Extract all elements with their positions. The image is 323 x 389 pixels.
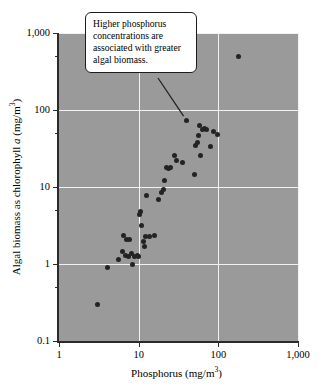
annotation-callout: Higher phosphorus concentrations are ass… xyxy=(85,12,197,73)
data-point xyxy=(127,237,132,242)
y-axis-minor-tick xyxy=(55,133,59,134)
data-point xyxy=(172,153,177,158)
y-axis-tick-label: 1,000 xyxy=(26,28,50,39)
gridline-vertical xyxy=(298,33,299,341)
y-axis-title-superscript: 3 xyxy=(8,102,17,106)
data-point xyxy=(236,54,241,59)
data-point xyxy=(174,158,179,163)
scatter-points xyxy=(59,33,298,341)
callout-line-2: concentrations are xyxy=(93,30,190,42)
plot-area: 0.11101001,0001101001,000 xyxy=(57,33,298,343)
data-point xyxy=(204,127,209,132)
x-axis-title-tail: ) xyxy=(218,367,222,379)
data-point xyxy=(116,257,121,262)
y-axis-minor-tick xyxy=(55,210,59,211)
x-axis-tick xyxy=(59,341,60,347)
data-point xyxy=(136,254,141,259)
x-axis-tick xyxy=(218,341,219,347)
y-axis-tick-label: 1 xyxy=(45,259,50,270)
y-axis-minor-tick xyxy=(55,56,59,57)
y-axis-title-text: Algal biomass as chlorophyll xyxy=(10,144,22,275)
y-axis-tick-label: 0.1 xyxy=(37,336,50,347)
x-axis-title: Phosphorus (mg/m3) xyxy=(57,366,296,379)
y-axis-title: Algal biomass as chlorophyll a (mg/m3) xyxy=(9,33,27,341)
x-axis-tick-label: 100 xyxy=(210,350,226,361)
data-point xyxy=(161,187,166,192)
data-point xyxy=(180,160,185,165)
data-point xyxy=(195,140,200,145)
callout-line-3: associated with greater xyxy=(93,42,190,54)
x-axis-tick xyxy=(139,341,140,347)
data-point xyxy=(192,172,197,177)
callout-line-1: Higher phosphorus xyxy=(93,18,190,30)
y-axis-title-italic: a xyxy=(10,138,22,144)
y-axis-tick xyxy=(53,33,59,34)
data-point xyxy=(142,244,147,249)
y-axis-tick-label: 100 xyxy=(34,105,50,116)
data-point xyxy=(130,262,135,267)
y-axis-tick-label: 10 xyxy=(40,182,51,193)
x-axis-title-text: Phosphorus (mg/m xyxy=(131,367,214,379)
x-axis-tick-label: 1 xyxy=(56,350,61,361)
y-axis-minor-tick xyxy=(55,287,59,288)
chart-figure: 0.11101001,0001101001,000 Phosphorus (mg… xyxy=(0,0,323,389)
data-point xyxy=(196,133,201,138)
x-axis-tick xyxy=(298,341,299,347)
y-axis-title-mid: (mg/m xyxy=(10,106,22,138)
data-point xyxy=(184,118,189,123)
data-point xyxy=(156,197,161,202)
y-axis-tick xyxy=(53,264,59,265)
x-axis-tick-label: 1,000 xyxy=(286,350,310,361)
data-point xyxy=(208,144,213,149)
data-point xyxy=(95,302,100,307)
data-point xyxy=(215,132,220,137)
data-point xyxy=(162,178,167,183)
data-point xyxy=(144,193,149,198)
y-axis-tick xyxy=(53,110,59,111)
x-axis-tick-label: 10 xyxy=(133,350,144,361)
data-point xyxy=(139,223,144,228)
data-point xyxy=(168,165,173,170)
data-point xyxy=(105,265,110,270)
data-point xyxy=(138,209,143,214)
data-point xyxy=(198,153,203,158)
y-axis-tick xyxy=(53,187,59,188)
data-point xyxy=(152,233,157,238)
callout-line-4: algal biomass. xyxy=(93,54,190,66)
y-axis-title-tail: ) xyxy=(10,99,22,103)
